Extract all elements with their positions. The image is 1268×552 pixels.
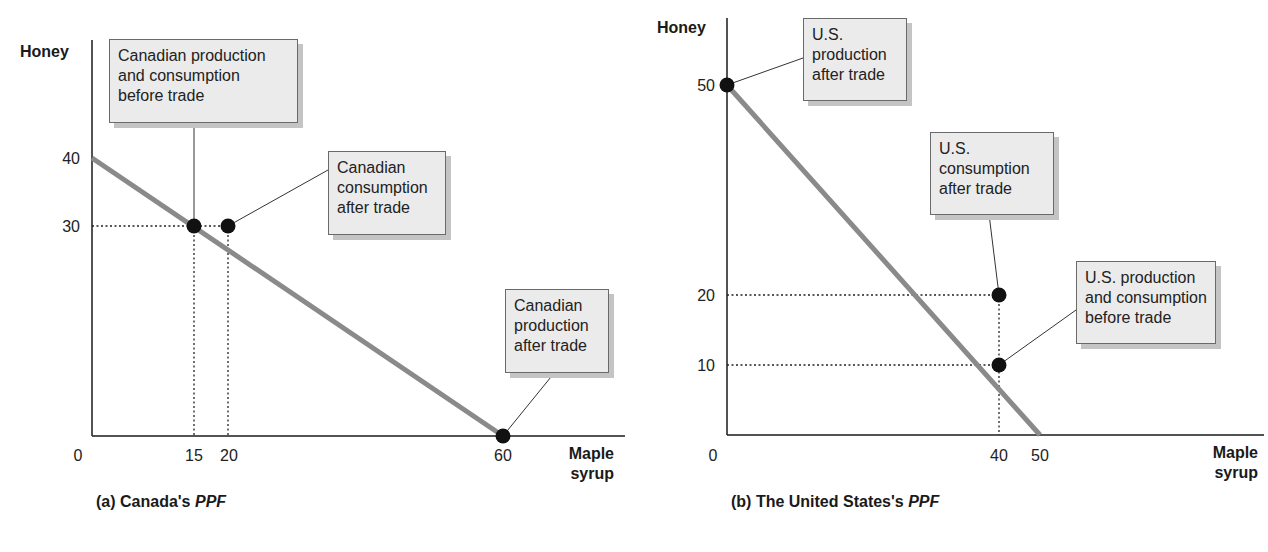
caption-canada: (a) Canada's PPF [96, 493, 226, 511]
us-ppf-panel: Honey Maple syrup 50 20 10 0 40 50 U.S. … [640, 0, 1268, 552]
y-axis-label: Honey [657, 18, 706, 38]
x-tick-0: 0 [58, 447, 98, 465]
point-before-trade [992, 358, 1007, 373]
x-axis-label-line1: Maple [1204, 443, 1258, 463]
leader-consumption-after [228, 170, 328, 226]
caption-prefix: (a) Canada's [96, 493, 191, 510]
leader-before [999, 310, 1076, 365]
point-consumption-after-trade [992, 288, 1007, 303]
y-tick-20: 20 [675, 287, 715, 305]
y-tick-50: 50 [675, 77, 715, 95]
point-consumption-after-trade [221, 219, 236, 234]
x-tick-20: 20 [209, 447, 249, 465]
callout-us-consumption-after: U.S. consumption after trade [930, 132, 1054, 215]
caption-prefix: (b) The United States's [731, 493, 904, 510]
y-tick-10: 10 [675, 357, 715, 375]
callout-canada-production-after: Canadian production after trade [505, 289, 609, 373]
leader-consumption-after [989, 214, 999, 295]
caption-us: (b) The United States's PPF [731, 493, 939, 511]
x-axis-label-line2: syrup [1204, 463, 1258, 483]
point-production-after-trade [496, 429, 511, 444]
x-tick-15: 15 [174, 447, 214, 465]
y-tick-40: 40 [40, 150, 80, 168]
leader-production-after [727, 58, 803, 85]
x-tick-60: 60 [483, 447, 523, 465]
x-tick-0: 0 [693, 447, 733, 465]
x-tick-40: 40 [979, 447, 1019, 465]
callout-us-production-after: U.S. production after trade [803, 18, 907, 101]
leader-production-after [503, 372, 555, 436]
callout-canada-before-trade: Canadian production and consumption befo… [109, 39, 298, 123]
caption-italic: PPF [908, 493, 939, 510]
point-before-trade [187, 219, 202, 234]
x-axis-label: Maple syrup [1204, 443, 1258, 483]
y-tick-30: 30 [40, 218, 80, 236]
canada-ppf-panel: Honey Maple syrup 40 30 0 15 20 60 Canad… [0, 0, 640, 552]
x-axis-label: Maple syrup [560, 444, 614, 484]
x-tick-50: 50 [1020, 447, 1060, 465]
callout-canada-consumption-after: Canadian consumption after trade [328, 151, 446, 235]
canada-ppf-plot [0, 0, 640, 552]
x-axis-label-line2: syrup [560, 464, 614, 484]
callout-us-before-trade: U.S. production and consumption before t… [1076, 261, 1216, 344]
point-production-after-trade [720, 78, 735, 93]
caption-italic: PPF [195, 493, 226, 510]
x-axis-label-line1: Maple [560, 444, 614, 464]
y-axis-label: Honey [20, 42, 69, 62]
